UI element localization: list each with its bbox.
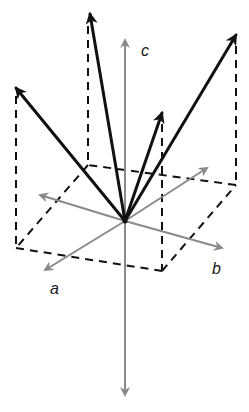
axes [40,40,222,395]
dashed-box-edge [162,185,236,271]
axis-label-c: c [141,42,149,59]
dashed-box-edge [16,248,162,271]
axis-a-negative [40,195,125,221]
vector-diagram: c a b [0,0,249,412]
axis-label-a: a [50,280,59,297]
axis-label-b: b [212,260,221,277]
origin-point [123,219,128,224]
vector-v4 [125,35,236,221]
axis-b-positive [125,221,222,248]
vector-v1 [16,88,125,221]
vector-v2 [90,14,125,221]
